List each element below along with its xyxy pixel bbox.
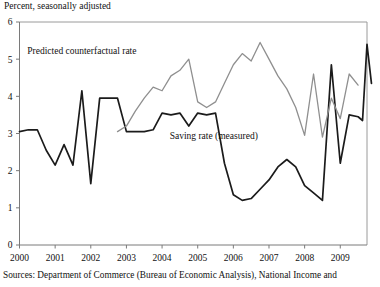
- y-tick-label: 2: [8, 166, 13, 176]
- chart-annotations: Predicted counterfactual rateSaving rate…: [27, 46, 258, 142]
- y-tick-label: 0: [8, 240, 13, 250]
- x-tick-label: 2008: [295, 253, 314, 263]
- y-tick-label: 1: [8, 203, 13, 213]
- series-label: Predicted counterfactual rate: [27, 46, 136, 56]
- x-tick-label: 2009: [331, 253, 350, 263]
- x-tick-label: 2002: [81, 253, 100, 263]
- y-tick-label: 4: [8, 92, 13, 102]
- x-tick-label: 2005: [188, 253, 207, 263]
- x-tick-label: 2004: [153, 253, 172, 263]
- series-label: Saving rate (measured): [170, 131, 258, 142]
- x-tick-label: 2003: [117, 253, 136, 263]
- x-tick-label: 2007: [259, 253, 278, 263]
- x-axis-ticks: [20, 245, 341, 249]
- series-line-predicted-counterfactual-rate: [118, 42, 359, 137]
- x-tick-label: 2001: [46, 253, 65, 263]
- y-axis-ticks: [16, 22, 20, 245]
- y-axis-tick-labels: 0123456: [8, 17, 13, 250]
- y-tick-label: 6: [8, 17, 13, 27]
- x-tick-label: 2000: [10, 253, 29, 263]
- y-tick-label: 5: [8, 55, 13, 65]
- y-axis-units-label: Percent, seasonally adjusted: [4, 1, 111, 12]
- series-line-saving-rate-measured: [20, 44, 372, 200]
- y-tick-label: 3: [8, 129, 13, 139]
- x-tick-label: 2006: [224, 253, 243, 263]
- savings-rate-chart-figure: Percent, seasonally adjusted 0123456 200…: [0, 0, 380, 287]
- x-axis-tick-labels: 2000200120022003200420052006200720082009: [10, 253, 350, 263]
- data-series-layer: [20, 42, 372, 200]
- source-note: Sources: Department of Commerce (Bureau …: [3, 270, 337, 281]
- chart-plot-area: 0123456 20002001200220032004200520062007…: [0, 0, 380, 287]
